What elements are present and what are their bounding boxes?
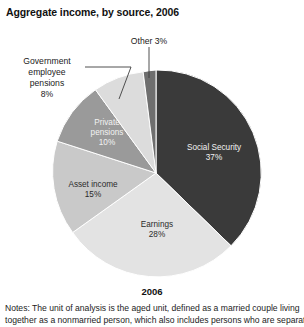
slice-label-government-employee-pensions-line3: pensions: [30, 78, 64, 88]
notes-line-1: Notes: The unit of analysis is the aged …: [5, 303, 301, 315]
notes-block: Notes: The unit of analysis is the aged …: [5, 303, 301, 326]
slice-value-government-employee-pensions: 8%: [41, 89, 54, 99]
slice-label-other: Other 3%: [131, 36, 168, 46]
slice-label-government-employee-pensions: Government: [23, 56, 71, 66]
chart-axis-label-year: 2006: [0, 286, 304, 297]
slice-value-asset-income: 15%: [85, 190, 101, 199]
slice-label-social-security: Social Security: [187, 143, 242, 152]
slice-label-asset-income: Asset income: [68, 180, 118, 189]
slice-label-private-pensions-line2: pensions: [91, 128, 124, 137]
pie-chart: Social Security 37% Earnings 28% Asset i…: [0, 0, 304, 327]
slice-label-private-pensions: Private: [94, 118, 120, 127]
figure-container: Aggregate income, by source, 2006 Social…: [0, 0, 304, 327]
notes-line-2: together as a nonmarried person, which a…: [5, 315, 301, 327]
slice-label-earnings: Earnings: [141, 220, 173, 229]
slice-value-social-security: 37%: [206, 153, 222, 162]
slice-value-earnings: 28%: [149, 230, 165, 239]
slice-label-government-employee-pensions-line2: employee: [28, 67, 65, 77]
slice-value-private-pensions: 10%: [99, 138, 115, 147]
